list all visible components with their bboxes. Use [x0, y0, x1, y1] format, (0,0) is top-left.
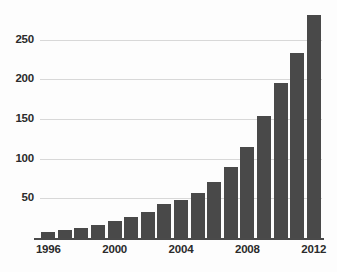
- bar-2005: [191, 193, 205, 238]
- x-tick-label-2008: 2008: [235, 243, 260, 255]
- bar-2012: [307, 15, 321, 238]
- bar-2006: [207, 182, 221, 238]
- x-tick-label-2004: 2004: [169, 243, 194, 255]
- x-axis-line: [34, 238, 324, 240]
- y-tick-label-50: 50: [22, 192, 34, 203]
- bar-1997: [58, 230, 72, 238]
- bar-2008: [240, 147, 254, 238]
- bar-1998: [74, 228, 88, 238]
- bar-2001: [124, 217, 138, 238]
- bar-2002: [141, 212, 155, 238]
- bar-2010: [274, 83, 288, 238]
- bar-2003: [157, 204, 171, 238]
- bar-chart: 25020015010050 19962000200420082012: [0, 0, 337, 272]
- x-tick-label-1996: 1996: [36, 243, 61, 255]
- y-tick-label-100: 100: [15, 153, 34, 164]
- y-tick-label-150: 150: [15, 113, 34, 124]
- x-tick-label-2012: 2012: [301, 243, 326, 255]
- x-tick-label-2000: 2000: [102, 243, 127, 255]
- bar-2009: [257, 116, 271, 238]
- y-axis-tick-labels: 25020015010050: [0, 0, 34, 272]
- y-tick-label-250: 250: [15, 34, 34, 45]
- y-tick-label-200: 200: [15, 73, 34, 84]
- bar-2011: [290, 53, 304, 238]
- bars-layer: [40, 8, 322, 238]
- bar-1999: [91, 225, 105, 238]
- bar-2007: [224, 167, 238, 238]
- bar-2000: [108, 221, 122, 238]
- bar-2004: [174, 200, 188, 238]
